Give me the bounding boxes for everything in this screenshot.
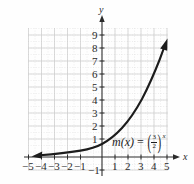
y-tick-label--1: −1 xyxy=(88,165,100,176)
y-tick-label-1: 1 xyxy=(92,134,98,145)
x-tick-label--3: −3 xyxy=(48,161,60,172)
x-tick-label-4: 4 xyxy=(151,161,157,172)
x-tick-label--5: −5 xyxy=(22,161,34,172)
exponential-function-graph: −5 −4 −3 −2 −1 1 2 3 4 5 9 8 7 6 5 4 3 2… xyxy=(0,0,194,184)
y-tick-label-9: 9 xyxy=(92,30,98,41)
x-tick-label-3: 3 xyxy=(138,161,144,172)
right-paren: ) xyxy=(157,132,161,152)
y-tick-label-2: 2 xyxy=(92,121,98,132)
x-tick-label-5: 5 xyxy=(164,161,170,172)
x-tick-label--1: −1 xyxy=(74,161,86,172)
y-tick-label-4: 4 xyxy=(92,95,98,106)
fraction-denominator: 2 xyxy=(151,142,157,150)
function-equation-label: m(x) = ( 3 2 ) x xyxy=(112,132,166,152)
y-tick-label-6: 6 xyxy=(92,69,98,80)
y-axis-arrowhead xyxy=(99,15,104,22)
y-tick-label-5: 5 xyxy=(92,82,98,93)
equals-sign: = xyxy=(137,136,144,148)
fraction-numerator: 3 xyxy=(151,134,157,141)
y-tick-label-7: 7 xyxy=(92,56,98,67)
y-tick-label-8: 8 xyxy=(92,43,98,54)
curve-right-arrowhead xyxy=(160,39,167,51)
x-axis-arrowhead xyxy=(173,154,180,159)
function-lhs: m(x) xyxy=(112,136,134,148)
y-axis-label: y xyxy=(99,5,103,15)
x-tick-label--4: −4 xyxy=(35,161,47,172)
left-paren: ( xyxy=(147,132,151,152)
y-tick-label-3: 3 xyxy=(92,108,98,119)
x-tick-label-2: 2 xyxy=(125,161,131,172)
exponent-x: x xyxy=(163,133,166,140)
x-axis-label: x xyxy=(183,152,187,162)
fraction-base: 3 2 xyxy=(151,134,157,150)
x-tick-label--2: −2 xyxy=(61,161,73,172)
x-tick-label-1: 1 xyxy=(112,161,118,172)
